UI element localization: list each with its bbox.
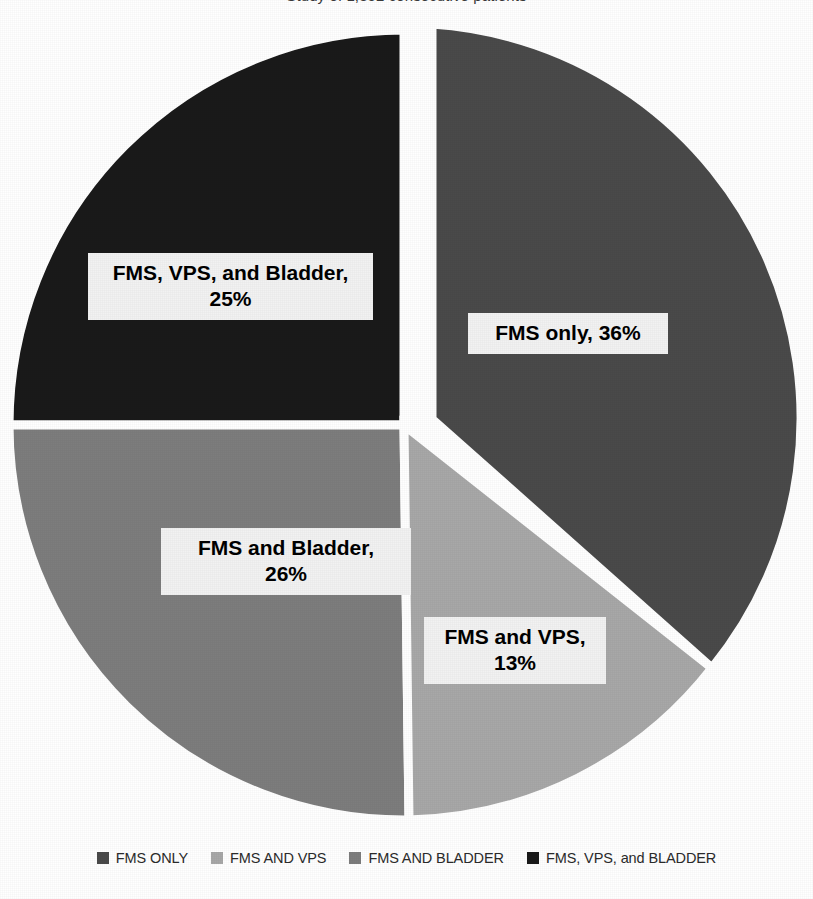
legend-swatch-icon	[527, 852, 539, 864]
legend-item-fms-vps-and-bladder[interactable]: FMS, VPS, and BLADDER	[527, 850, 716, 866]
legend-label-fms-and-bladder: FMS AND BLADDER	[368, 850, 503, 866]
data-label-fms-vps-bladder: FMS, VPS, and Bladder, 25%	[88, 253, 373, 320]
legend-swatch-icon	[211, 852, 223, 864]
pie-chart-svg	[0, 0, 813, 840]
legend-label-fms-and-vps: FMS AND VPS	[230, 850, 326, 866]
data-label-fms-only: FMS only, 36%	[468, 313, 668, 354]
legend-swatch-icon	[97, 852, 109, 864]
chart-legend: FMS ONLY FMS AND VPS FMS AND BLADDER FMS…	[0, 850, 813, 866]
legend-label-fms-vps-and-bladder: FMS, VPS, and BLADDER	[546, 850, 716, 866]
legend-item-fms-only[interactable]: FMS ONLY	[97, 850, 188, 866]
pie-slice-fms-bladder[interactable]	[9, 425, 409, 820]
pie-chart: FMS, VPS, and Bladder, 25% FMS only, 36%…	[0, 0, 813, 840]
data-label-fms-vps: FMS and VPS, 13%	[424, 617, 606, 684]
legend-item-fms-and-bladder[interactable]: FMS AND BLADDER	[349, 850, 503, 866]
pie-slice-fms-vps-bladder[interactable]	[9, 30, 404, 425]
legend-label-fms-only: FMS ONLY	[116, 850, 188, 866]
data-label-fms-bladder: FMS and Bladder, 26%	[161, 528, 411, 595]
legend-swatch-icon	[349, 852, 361, 864]
legend-item-fms-and-vps[interactable]: FMS AND VPS	[211, 850, 326, 866]
